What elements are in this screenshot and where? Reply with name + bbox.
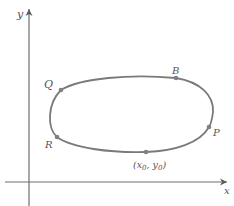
label-q: Q	[44, 78, 53, 91]
level-curve	[50, 77, 213, 153]
x-axis-label: x	[224, 185, 230, 196]
y-axis-label: y	[16, 8, 24, 21]
point-r	[55, 135, 60, 140]
label-r: R	[44, 139, 53, 150]
point-x0y0	[144, 150, 149, 155]
label-b: B	[171, 65, 179, 76]
point-p	[207, 125, 212, 130]
point-b	[174, 76, 179, 81]
point-q	[59, 88, 64, 93]
level-curve-diagram: y x Q B P R (x0, y0)	[0, 0, 234, 206]
label-p: P	[212, 127, 220, 138]
label-x0y0: (x0, y0)	[133, 159, 166, 172]
